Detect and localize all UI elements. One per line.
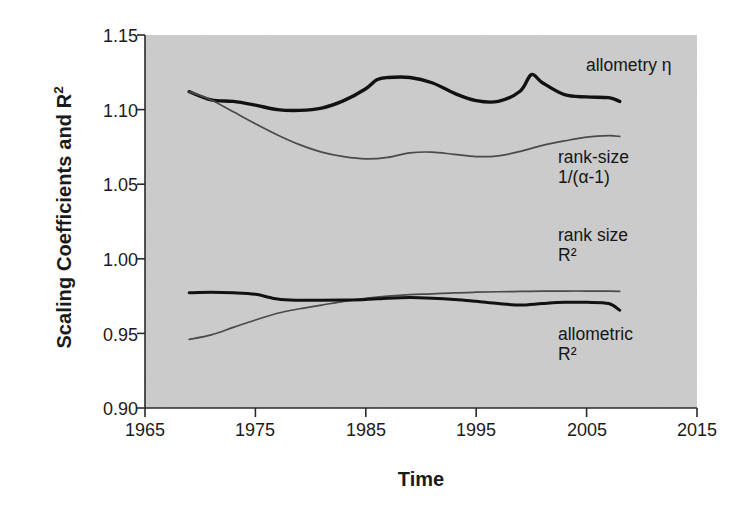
y-tick-marks <box>137 35 145 408</box>
rank-size-alpha-label: rank-size 1/(α-1) <box>558 148 629 187</box>
x-tick-marks <box>145 408 697 417</box>
chart-figure: Scaling Coefficients and R2 1.15 1.10 1.… <box>0 0 749 522</box>
allometric-r2-label: allometric R² <box>558 325 633 364</box>
allometry-eta-label: allometry η <box>586 56 672 76</box>
rank-size-r2-label: rank size R² <box>558 226 628 265</box>
plot-canvas <box>0 0 749 522</box>
